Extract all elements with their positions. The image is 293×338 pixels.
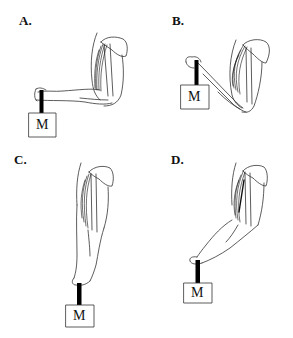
- panel-c-arm-drawing: [72, 163, 113, 285]
- panel-d-label: D.: [171, 152, 184, 168]
- biceps-diagram-figure: [0, 0, 293, 338]
- panel-a-label: A.: [19, 13, 32, 29]
- panel-a-arm-drawing: [35, 33, 128, 106]
- panel-b-label: B.: [172, 13, 184, 29]
- panel-d-biceps: [234, 172, 245, 222]
- panel-c-label: C.: [14, 152, 27, 168]
- panel-d-mass-label: M: [191, 285, 203, 301]
- panel-b-mass-bar: [195, 60, 199, 85]
- panel-c-mass-bar: [77, 283, 82, 306]
- panel-b-mass-label: M: [188, 89, 200, 105]
- panel-d-arm-drawing: [190, 163, 268, 264]
- panel-a-mass-bar: [40, 90, 44, 113]
- panel-c-biceps: [81, 174, 91, 228]
- panel-c-mass-label: M: [73, 308, 85, 324]
- panel-b-biceps: [232, 46, 247, 94]
- panel-a-mass-label: M: [36, 117, 48, 133]
- panel-d-mass-bar: [196, 260, 201, 283]
- panel-a-biceps: [95, 44, 107, 91]
